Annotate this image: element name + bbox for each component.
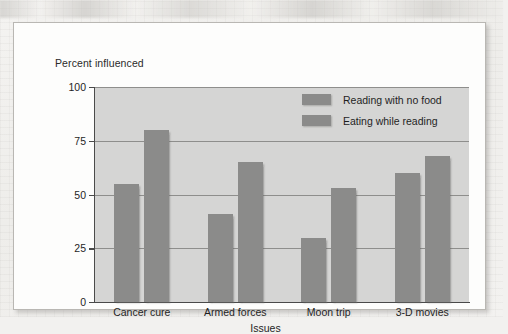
y-axis-title: Percent influenced <box>55 57 144 69</box>
category-label: Cancer cure <box>113 306 170 318</box>
bar <box>238 162 263 302</box>
bar <box>425 156 450 302</box>
chart-legend: Reading with no food Eating while readin… <box>302 91 442 133</box>
bar <box>144 130 169 302</box>
bar <box>331 188 356 302</box>
bar <box>301 238 326 303</box>
gridline <box>95 87 469 88</box>
y-tick-mark <box>89 141 95 142</box>
legend-item-label: Reading with no food <box>343 94 442 106</box>
bar <box>208 214 233 302</box>
y-tick-label: 50 <box>74 189 86 201</box>
x-axis-title: Issues <box>14 322 508 334</box>
y-tick-label: 0 <box>80 296 86 308</box>
y-tick-label: 25 <box>74 242 86 254</box>
bar <box>395 173 420 302</box>
y-tick-mark <box>89 248 95 249</box>
x-axis-line <box>94 302 470 303</box>
y-tick-mark <box>89 87 95 88</box>
legend-swatch-icon <box>302 94 331 105</box>
legend-item: Eating while reading <box>302 112 442 129</box>
y-tick-mark <box>89 195 95 196</box>
y-tick-label: 75 <box>74 135 86 147</box>
chart-figure-card: Percent influenced 0255075100 Cancer cur… <box>13 22 486 310</box>
legend-item: Reading with no food <box>302 91 442 108</box>
category-label: Armed forces <box>204 306 266 318</box>
y-tick-label: 100 <box>68 81 86 93</box>
category-label: Moon trip <box>307 306 351 318</box>
legend-item-label: Eating while reading <box>343 115 438 127</box>
legend-swatch-icon <box>302 115 331 126</box>
bar <box>114 184 139 302</box>
category-label: 3-D movies <box>396 306 449 318</box>
y-tick-mark <box>89 302 95 303</box>
